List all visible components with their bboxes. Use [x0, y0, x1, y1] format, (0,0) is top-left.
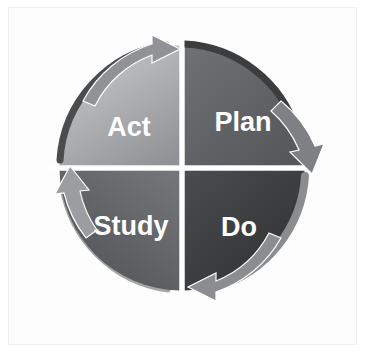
quadrant-label-do: Do [221, 212, 257, 242]
quadrant-label-act: Act [107, 112, 151, 142]
pdca-cycle-diagram: Plan Do Study Act [0, 0, 365, 353]
quadrant-label-study: Study [93, 211, 168, 241]
pdca-cycle-graphic: Plan Do Study Act [0, 0, 365, 353]
quadrant-label-plan: Plan [214, 107, 271, 137]
